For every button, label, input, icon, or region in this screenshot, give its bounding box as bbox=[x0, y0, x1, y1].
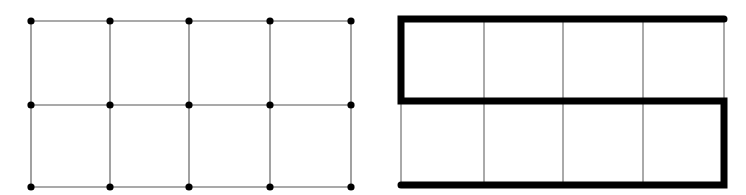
grid-vertex-dot bbox=[106, 17, 113, 24]
diagram-canvas bbox=[0, 0, 746, 195]
left-grid-graph bbox=[27, 17, 354, 190]
grid-vertex-dot bbox=[27, 183, 34, 190]
grid-vertex-dot bbox=[185, 183, 192, 190]
grid-vertex-dot bbox=[347, 101, 354, 108]
grid-vertex-dot bbox=[347, 17, 354, 24]
grid-vertex-dot bbox=[266, 183, 273, 190]
grid-vertex-dot bbox=[27, 17, 34, 24]
grid-vertex-dot bbox=[347, 183, 354, 190]
grid-vertex-dot bbox=[266, 17, 273, 24]
grid-vertex-dot bbox=[27, 101, 34, 108]
right-grid-with-path bbox=[401, 19, 724, 185]
grid-vertex-dot bbox=[106, 101, 113, 108]
grid-vertex-dot bbox=[185, 17, 192, 24]
grid-vertex-dot bbox=[266, 101, 273, 108]
grid-vertex-dot bbox=[185, 101, 192, 108]
grid-vertex-dot bbox=[106, 183, 113, 190]
